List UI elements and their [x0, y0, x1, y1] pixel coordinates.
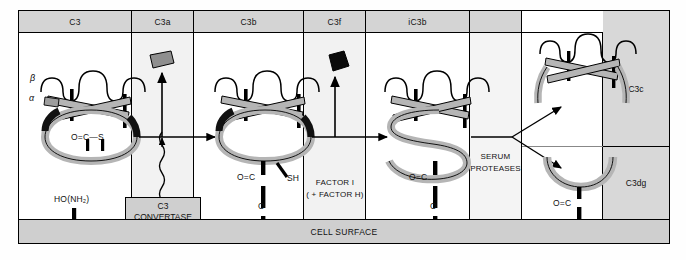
- label-beta-chain: β: [30, 73, 35, 83]
- fragment-c3a: [150, 51, 174, 137]
- fragment-c3f: [329, 51, 349, 137]
- label-c3b-oxygen: O: [258, 201, 265, 211]
- arrow-to-c3c: [512, 107, 561, 137]
- label-ic3b-oxygen: O: [430, 201, 437, 211]
- cell-surface-label: CELL SURFACE: [310, 227, 377, 237]
- label-c3b-carbonyl: O=C: [237, 172, 255, 182]
- label-acceptor-group: HO(NH₂): [54, 194, 89, 204]
- cell-surface-bar: CELL SURFACE: [19, 219, 669, 243]
- factor-i-line-2: ( + FACTOR H): [306, 189, 364, 201]
- factor-i-line-1: FACTOR I: [306, 177, 364, 189]
- molecule-c3c: [538, 34, 636, 103]
- label-free-thiol: SH: [287, 173, 299, 183]
- factor-i-annotation: FACTOR I ( + FACTOR H): [306, 177, 364, 201]
- molecule-c3b: [215, 71, 319, 230]
- serum-proteases-annotation: SERUM PROTEASES: [470, 151, 521, 175]
- serum-proteases-line-1: SERUM: [470, 151, 521, 163]
- convertase-line-1: C3: [126, 201, 200, 212]
- label-alpha-chain: α: [29, 93, 34, 103]
- label-ic3b-carbonyl: O=C: [409, 172, 427, 182]
- label-c3dg-carbonyl: O=C: [553, 198, 571, 208]
- complement-c3-pathway-figure: C3 C3a C3b C3f iC3b C3c C3dg: [0, 0, 686, 260]
- label-thioester-c3: O=C—S: [71, 132, 104, 142]
- diagram-frame: C3 C3a C3b C3f iC3b C3c C3dg: [18, 10, 670, 244]
- serum-proteases-line-2: PROTEASES: [470, 163, 521, 175]
- molecule-artwork: [19, 11, 669, 243]
